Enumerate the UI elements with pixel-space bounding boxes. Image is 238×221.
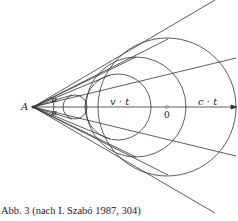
- figure-caption: Abb. 3 (nach I. Szabó 1987, 304): [1, 205, 141, 216]
- origin-label: 0: [164, 111, 170, 120]
- cone-lower-line: [33, 107, 215, 213]
- origin-dot: [166, 106, 169, 109]
- point-a-dot: [31, 105, 34, 108]
- alpha-top-label: α: [52, 96, 57, 104]
- cone-diagram: [0, 0, 238, 221]
- point-a-label: A: [21, 102, 28, 112]
- c-t-label: c · t: [198, 97, 217, 107]
- alpha-bottom-label: α: [52, 109, 57, 117]
- v-t-label: v · t: [110, 97, 129, 107]
